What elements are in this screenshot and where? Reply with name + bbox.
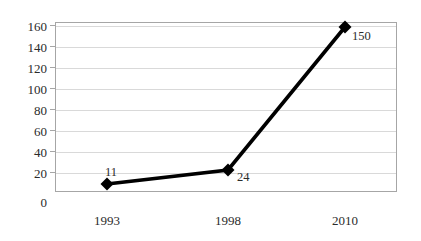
y-axis-label-120: 120 xyxy=(7,62,47,75)
y-tick-mark-60 xyxy=(50,130,55,131)
y-tick-mark-160 xyxy=(50,25,55,26)
data-label-2010: 150 xyxy=(352,30,371,43)
gridline-140 xyxy=(56,47,396,48)
y-tick-mark-100 xyxy=(50,88,55,89)
y-axis-label-0: 0 xyxy=(7,196,47,209)
y-tick-mark-20 xyxy=(50,172,55,173)
data-label-1993: 11 xyxy=(105,166,117,179)
gridline-100 xyxy=(56,89,396,90)
y-axis-label-20: 20 xyxy=(7,167,47,180)
data-label-1998: 24 xyxy=(237,171,250,184)
gridline-40 xyxy=(56,152,396,153)
y-axis-label-60: 60 xyxy=(7,125,47,138)
y-axis-label-100: 100 xyxy=(7,83,47,96)
x-axis-label-1998: 1998 xyxy=(193,214,263,228)
x-axis-label-2010: 2010 xyxy=(310,214,380,228)
y-tick-mark-40 xyxy=(50,151,55,152)
y-tick-mark-80 xyxy=(50,109,55,110)
y-axis-label-40: 40 xyxy=(7,146,47,159)
gridline-120 xyxy=(56,68,396,69)
y-axis-label-160: 160 xyxy=(7,20,47,33)
y-axis-label-140: 140 xyxy=(7,41,47,54)
gridline-80 xyxy=(56,110,396,111)
x-axis-label-1993: 1993 xyxy=(72,214,142,228)
gridline-160 xyxy=(56,26,396,27)
y-tick-mark-140 xyxy=(50,46,55,47)
y-tick-mark-120 xyxy=(50,67,55,68)
gridline-60 xyxy=(56,131,396,132)
line-chart: 160 140 120 100 80 60 40 20 0 1993 1998 … xyxy=(0,0,421,241)
y-axis-label-80: 80 xyxy=(7,104,47,117)
